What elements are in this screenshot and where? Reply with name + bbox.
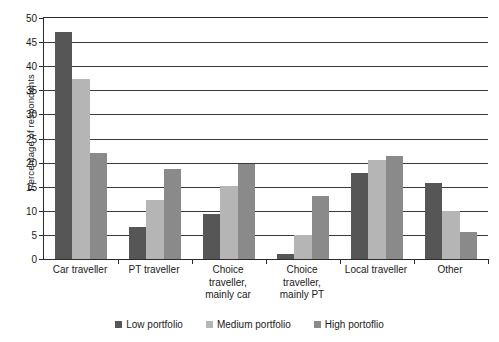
bar: [90, 153, 108, 259]
x-axis-label-line: traveller,: [265, 277, 339, 290]
bar: [294, 235, 312, 259]
legend-swatch-icon: [115, 321, 122, 328]
x-axis-group-label: Car traveller: [43, 264, 117, 277]
bar: [277, 254, 295, 259]
y-tick-label: 10: [26, 205, 37, 216]
x-axis-group-label: Local traveller: [339, 264, 413, 277]
x-axis-label-line: traveller,: [191, 277, 265, 290]
bar: [425, 183, 443, 259]
x-axis-label-line: mainly car: [191, 289, 265, 302]
bar: [351, 173, 369, 259]
legend-item[interactable]: Low portfolio: [115, 319, 183, 330]
bar: [442, 211, 460, 259]
y-tick-label: 5: [31, 229, 37, 240]
y-tick-label: 45: [26, 37, 37, 48]
bar: [72, 79, 90, 259]
plot-area: 05101520253035404550: [43, 17, 488, 259]
x-axis-label-line: Local traveller: [339, 264, 413, 277]
bar: [146, 200, 164, 259]
y-tick-label: 30: [26, 109, 37, 120]
bar: [203, 214, 221, 259]
x-axis-label-line: mainly PT: [265, 289, 339, 302]
legend-label: Medium portfolio: [217, 319, 291, 330]
x-axis-label-line: Choice: [265, 264, 339, 277]
y-tick-label: 40: [26, 61, 37, 72]
chart-legend: Low portfolioMedium portfolioHigh portof…: [0, 319, 499, 330]
x-axis-label-line: PT traveller: [117, 264, 191, 277]
bar: [460, 232, 478, 259]
y-tick-label: 25: [26, 133, 37, 144]
x-axis-group-label: Choicetraveller,mainly car: [191, 264, 265, 302]
bar: [129, 227, 147, 259]
x-axis-group-label: Choicetraveller,mainly PT: [265, 264, 339, 302]
legend-item[interactable]: High portoflio: [314, 319, 384, 330]
y-tick-label: 20: [26, 157, 37, 168]
bar: [312, 196, 330, 259]
legend-swatch-icon: [314, 321, 321, 328]
legend-label: High portoflio: [325, 319, 384, 330]
legend-label: Low portfolio: [126, 319, 183, 330]
bar: [55, 32, 73, 259]
legend-swatch-icon: [206, 321, 213, 328]
x-axis-labels: Car travellerPT travellerChoicetraveller…: [43, 264, 487, 314]
bar: [220, 186, 238, 259]
y-tick-label: 0: [31, 254, 37, 265]
x-tick-mark: [488, 259, 489, 264]
x-axis-group-label: PT traveller: [117, 264, 191, 277]
y-tick-label: 50: [26, 13, 37, 24]
y-tick-label: 35: [26, 85, 37, 96]
bars-layer: [44, 18, 488, 259]
bar: [368, 160, 386, 259]
y-tick-label: 15: [26, 181, 37, 192]
x-axis-label-line: Choice: [191, 264, 265, 277]
legend-item[interactable]: Medium portfolio: [206, 319, 291, 330]
x-axis-group-label: Other: [413, 264, 487, 277]
x-axis-label-line: Car traveller: [43, 264, 117, 277]
bar-chart-figure: Percentage of respondents 05101520253035…: [0, 0, 499, 342]
y-tick-mark: [39, 259, 44, 260]
bar: [238, 164, 256, 259]
x-axis-label-line: Other: [413, 264, 487, 277]
bar: [386, 156, 404, 259]
bar: [164, 169, 182, 259]
